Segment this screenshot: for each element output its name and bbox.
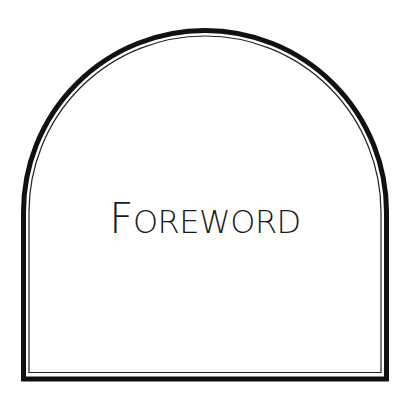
page-title: FOREWORD [0,198,410,240]
title-initial: F [109,194,133,243]
title-rest: OREWORD [133,203,301,241]
